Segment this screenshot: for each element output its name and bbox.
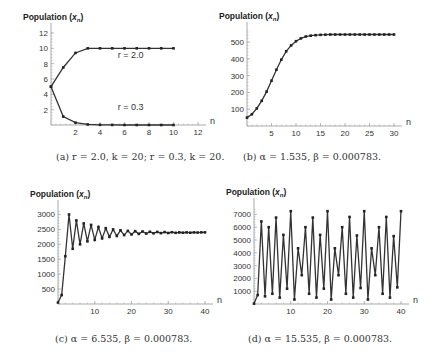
data-point xyxy=(305,35,308,38)
data-point xyxy=(264,295,267,298)
x-axis-label: n xyxy=(406,117,411,127)
x-tick-label: 8 xyxy=(147,128,152,137)
data-point xyxy=(356,234,359,237)
data-point xyxy=(71,247,74,250)
x-tick-label: 10 xyxy=(292,129,301,138)
x-tick-label: 12 xyxy=(194,128,203,137)
data-point xyxy=(196,231,199,234)
data-point xyxy=(79,243,82,246)
data-point xyxy=(339,33,342,36)
data-point xyxy=(93,239,96,242)
data-point xyxy=(334,33,337,36)
data-point xyxy=(309,34,312,37)
y-tick-label: 2000 xyxy=(37,240,55,249)
series-line xyxy=(58,214,205,302)
data-point xyxy=(160,124,163,127)
x-axis-label: n xyxy=(413,295,418,305)
x-tick-label: 15 xyxy=(316,129,325,138)
data-point xyxy=(130,233,133,236)
data-point xyxy=(389,296,392,299)
data-point xyxy=(300,37,303,40)
data-point xyxy=(62,66,65,69)
chart-panel-a: 2468101224681012nPopulation (xn)r = 2.0r… xyxy=(23,12,215,137)
data-point xyxy=(57,301,60,304)
chart-panel-c: 1020304050010001500200025003000nPopulati… xyxy=(30,189,222,316)
data-point xyxy=(75,219,78,222)
data-point xyxy=(314,34,317,37)
series-line xyxy=(51,87,174,125)
data-point xyxy=(319,34,322,37)
series-annotation: r = 2.0 xyxy=(118,50,144,60)
data-point xyxy=(265,90,268,93)
data-point xyxy=(246,116,249,119)
data-point xyxy=(123,124,126,127)
data-point xyxy=(367,298,370,301)
data-point xyxy=(393,33,396,36)
y-axis-label: Population (xn) xyxy=(226,187,287,198)
data-point xyxy=(352,296,355,299)
data-point xyxy=(326,210,329,213)
data-point xyxy=(358,33,361,36)
y-tick-label: 2000 xyxy=(233,274,251,283)
data-point xyxy=(167,232,170,235)
chart-panel-d: 102030401000200030004000500060007000nPop… xyxy=(226,187,418,316)
data-point xyxy=(295,40,298,43)
data-point xyxy=(50,85,53,88)
y-tick-label: 100 xyxy=(231,105,245,114)
data-point xyxy=(374,274,377,277)
data-point xyxy=(74,121,77,124)
data-point xyxy=(171,231,174,234)
series-line xyxy=(247,35,394,118)
data-point xyxy=(101,237,104,240)
x-tick-label: 10 xyxy=(169,128,178,137)
data-point xyxy=(97,226,100,229)
data-point xyxy=(82,222,85,225)
data-point xyxy=(378,33,381,36)
x-tick-label: 30 xyxy=(390,129,399,138)
y-tick-label: 200 xyxy=(231,88,245,97)
caption-b: (b) α = 1.535, β = 0.000783. xyxy=(243,151,381,162)
data-point xyxy=(330,298,333,301)
y-tick-label: 4 xyxy=(44,90,49,99)
series-line xyxy=(254,211,401,303)
x-tick-label: 30 xyxy=(360,307,369,316)
data-point xyxy=(354,33,357,36)
y-tick-label: 10 xyxy=(39,44,48,53)
data-point xyxy=(160,232,163,235)
data-point xyxy=(135,47,138,50)
data-point xyxy=(381,292,384,295)
data-point xyxy=(324,33,327,36)
data-point xyxy=(148,47,151,50)
y-tick-label: 3000 xyxy=(233,262,251,271)
data-point xyxy=(204,231,207,234)
y-tick-label: 2 xyxy=(44,106,49,115)
figure-canvas: 2468101224681012nPopulation (xn)r = 2.0r… xyxy=(0,0,436,361)
y-tick-label: 2500 xyxy=(37,225,55,234)
data-point xyxy=(182,231,185,234)
data-point xyxy=(329,33,332,36)
x-axis-label: n xyxy=(210,116,215,126)
data-point xyxy=(260,220,263,223)
data-point xyxy=(60,294,63,297)
data-point xyxy=(378,226,381,229)
caption-a: (a) r = 2.0, k = 20; r = 0.3, k = 20. xyxy=(56,151,224,162)
data-point xyxy=(290,44,293,47)
x-tick-label: 20 xyxy=(127,307,136,316)
data-point xyxy=(308,292,311,295)
y-tick-label: 12 xyxy=(39,29,48,38)
data-point xyxy=(116,235,119,238)
caption-d: (d) α = 15.535, β = 0.000783. xyxy=(248,333,392,344)
data-point xyxy=(373,33,376,36)
data-point xyxy=(285,50,288,53)
data-point xyxy=(275,68,278,71)
y-tick-label: 500 xyxy=(231,38,245,47)
data-point xyxy=(138,233,141,236)
data-point xyxy=(297,247,300,250)
data-point xyxy=(388,33,391,36)
x-tick-label: 20 xyxy=(341,129,350,138)
data-point xyxy=(185,231,188,234)
y-tick-label: 8 xyxy=(44,60,49,69)
data-point xyxy=(271,292,274,295)
data-point xyxy=(334,247,337,250)
x-tick-label: 40 xyxy=(397,307,406,316)
